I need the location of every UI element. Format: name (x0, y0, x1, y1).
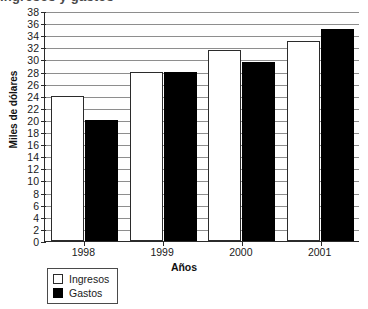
bar-group (208, 12, 275, 241)
bar-group (130, 12, 197, 241)
legend-swatch-ingresos (53, 274, 63, 284)
y-axis-tick-label: 16 (27, 139, 39, 151)
bar-gastos-1998 (85, 120, 118, 241)
y-axis-tick-label: 26 (27, 79, 39, 91)
y-axis-tick (41, 121, 46, 122)
y-axis-tick (41, 230, 46, 231)
y-axis-tick-label: 10 (27, 175, 39, 187)
y-axis-tick-label: 38 (27, 6, 39, 18)
chart-title: Ingresos y gastos (0, 0, 368, 5)
y-axis-tick-label: 28 (27, 67, 39, 79)
x-axis-tick-label: 1998 (72, 246, 95, 258)
bar-gastos-1999 (164, 72, 197, 241)
y-axis-tick (41, 194, 46, 195)
legend-label: Ingresos (69, 273, 109, 285)
bar-gastos-2001 (321, 29, 354, 241)
y-axis-tick (41, 24, 46, 25)
y-axis-tick (41, 12, 46, 13)
y-axis-tick-label: 0 (33, 236, 39, 248)
y-axis-tick-label: 12 (27, 163, 39, 175)
bar-gastos-2000 (242, 62, 275, 241)
y-axis-tick-label: 30 (27, 54, 39, 66)
y-axis-tick (41, 97, 46, 98)
y-axis-tick (41, 60, 46, 61)
y-axis-tick-label: 14 (27, 151, 39, 163)
x-axis-tick-label: 2001 (308, 246, 331, 258)
y-axis-tick-label: 18 (27, 127, 39, 139)
y-axis-tick (41, 218, 46, 219)
plot-inner: 02468101214161820222426283032343638 (45, 12, 359, 241)
y-axis-tick-label: 4 (33, 212, 39, 224)
y-axis-tick (41, 206, 46, 207)
legend-label: Gastos (69, 287, 102, 299)
y-axis-tick-label: 36 (27, 18, 39, 30)
bar-group (51, 12, 118, 241)
y-axis-tick (41, 181, 46, 182)
y-axis-tick (41, 242, 46, 243)
y-axis-tick-label: 2 (33, 224, 39, 236)
y-axis-tick-label: 6 (33, 200, 39, 212)
legend-item-gastos: Gastos (53, 286, 109, 300)
y-axis-tick-label: 34 (27, 30, 39, 42)
y-axis-tick-label: 20 (27, 115, 39, 127)
chart-legend: IngresosGastos (47, 268, 118, 304)
legend-item-ingresos: Ingresos (53, 272, 109, 286)
y-axis-tick-label: 24 (27, 91, 39, 103)
y-axis-label: Miles de dólares (8, 50, 19, 170)
y-axis-tick (41, 73, 46, 74)
plot-area: 02468101214161820222426283032343638 (44, 12, 359, 242)
bar-ingresos-2001 (287, 41, 320, 241)
y-axis-tick (41, 48, 46, 49)
x-axis-tick-label: 1999 (150, 246, 173, 258)
y-axis-tick (41, 169, 46, 170)
y-axis-tick-label: 8 (33, 188, 39, 200)
y-axis-tick (41, 109, 46, 110)
y-axis-tick (41, 85, 46, 86)
bar-ingresos-1999 (130, 72, 163, 241)
bar-ingresos-2000 (208, 50, 241, 241)
y-axis-tick-label: 32 (27, 42, 39, 54)
y-axis-tick (41, 133, 46, 134)
y-axis-tick (41, 36, 46, 37)
bar-group (287, 12, 354, 241)
x-axis-tick-label: 2000 (229, 246, 252, 258)
legend-swatch-gastos (53, 288, 63, 298)
y-axis-tick (41, 145, 46, 146)
y-axis-tick (41, 157, 46, 158)
y-axis-tick-label: 22 (27, 103, 39, 115)
bar-ingresos-1998 (51, 96, 84, 241)
